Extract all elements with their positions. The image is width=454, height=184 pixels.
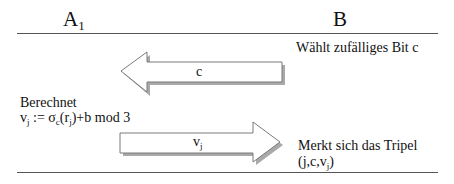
a-computes-formula: vj := σc(rj)+b mod 3 <box>20 110 130 125</box>
arrow-left-icon <box>121 52 285 96</box>
message-vj-label: vj <box>193 135 203 149</box>
message-arrows <box>0 0 454 184</box>
a-computes-title: Berechnet <box>20 95 77 110</box>
message-c-label: c <box>196 65 202 79</box>
b-stores-tuple: (j,c,vj) <box>298 154 334 169</box>
b-chooses-bit-text: Wählt zufälliges Bit c <box>296 40 418 55</box>
b-stores-title: Merkt sich das Tripel <box>298 138 417 153</box>
